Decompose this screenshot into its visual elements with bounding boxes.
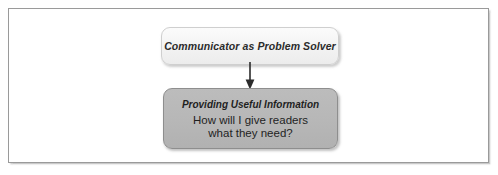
flow-node-communicator: Communicator as Problem Solver bbox=[161, 27, 339, 65]
flow-node-providing-body: How will I give readers what they need? bbox=[193, 114, 308, 141]
flow-node-communicator-label: Communicator as Problem Solver bbox=[164, 40, 336, 52]
flow-connector-arrow-down bbox=[242, 62, 258, 90]
arrow-down-icon bbox=[242, 62, 258, 90]
diagram-panel: Communicator as Problem Solver Providing… bbox=[8, 8, 489, 163]
flow-node-providing-useful-information: Providing Useful Information How will I … bbox=[163, 88, 338, 149]
flow-node-providing-body-line-1: How will I give readers bbox=[193, 114, 308, 128]
flow-node-providing-heading: Providing Useful Information bbox=[182, 99, 319, 110]
flow-node-providing-body-line-2: what they need? bbox=[193, 127, 308, 141]
diagram-stage: Communicator as Problem Solver Providing… bbox=[9, 9, 488, 162]
figure-root: Communicator as Problem Solver Providing… bbox=[0, 0, 498, 175]
